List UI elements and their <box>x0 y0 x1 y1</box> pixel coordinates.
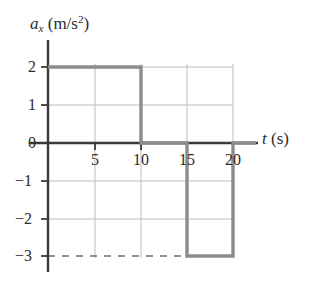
y-axis-title-units-close: ) <box>84 14 90 33</box>
ytick-label-2: 2 <box>6 59 36 75</box>
x-axis-title-units: (s) <box>271 129 289 148</box>
y-axis-title-variable: a <box>30 14 39 33</box>
ytick-label-minus-2: −2 <box>2 211 32 227</box>
ytick-label-minus-3: −3 <box>2 248 32 264</box>
vertical-gridlines <box>95 64 233 258</box>
y-axis-title: ax (m/s2) <box>30 14 89 34</box>
y-axis-title-units-open: (m/s <box>48 14 78 33</box>
x-axis-title-variable: t <box>262 129 267 148</box>
xtick-label-20: 20 <box>218 152 248 168</box>
acceleration-time-chart: ax (m/s2) t (s) 2 1 0 −1 −2 −3 5 10 15 2… <box>0 0 313 287</box>
ytick-label-minus-1: −1 <box>2 173 32 189</box>
y-axis-title-subscript: x <box>39 22 44 34</box>
ytick-label-1: 1 <box>6 97 36 113</box>
x-axis-title: t (s) <box>262 130 289 147</box>
ytick-label-0: 0 <box>6 135 36 151</box>
xtick-label-5: 5 <box>80 152 110 168</box>
xtick-label-10: 10 <box>126 152 156 168</box>
xtick-label-15: 15 <box>172 152 202 168</box>
